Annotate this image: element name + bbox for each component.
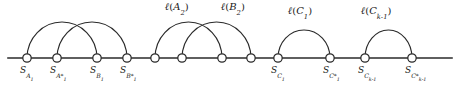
arc-arc-a2 bbox=[155, 22, 222, 58]
node-sa1 bbox=[23, 54, 31, 62]
node-sb1s bbox=[123, 54, 131, 62]
node-sb1 bbox=[93, 54, 101, 62]
node-sb2 bbox=[218, 54, 226, 62]
node-label-6: SCk-1 bbox=[358, 66, 376, 76]
arc-diagram-figure: SA1SA*1SB1SB*1SC1SC*1SCk-1SC*k-1ℓ(A2)ℓ(B… bbox=[0, 0, 462, 85]
node-label-4: SC1 bbox=[271, 66, 285, 76]
arc-label-lbl-c1: ℓ(C1) bbox=[288, 6, 312, 16]
node-sc1s bbox=[326, 54, 334, 62]
arc-arc-b2 bbox=[182, 22, 251, 58]
node-label-2: SB1 bbox=[90, 66, 104, 76]
node-sb2s bbox=[247, 54, 255, 62]
arc-arc-ck bbox=[365, 30, 412, 58]
diagram-canvas bbox=[0, 0, 462, 85]
node-sc1 bbox=[274, 54, 282, 62]
node-label-5: SC*1 bbox=[323, 66, 340, 76]
arc-label-lbl-b2: ℓ(B2) bbox=[221, 2, 245, 12]
node-label-0: SA1 bbox=[20, 66, 34, 76]
arc-arc-c1 bbox=[278, 30, 330, 58]
node-sck bbox=[361, 54, 369, 62]
arc-label-lbl-ck: ℓ(Ck-1) bbox=[361, 6, 391, 16]
node-sa2s bbox=[178, 54, 186, 62]
node-sa2 bbox=[151, 54, 159, 62]
node-label-1: SA*1 bbox=[50, 66, 67, 76]
node-label-3: SB*1 bbox=[120, 66, 137, 76]
node-sa1s bbox=[53, 54, 61, 62]
node-label-7: SC*k-1 bbox=[405, 66, 426, 76]
node-scks bbox=[408, 54, 416, 62]
arc-label-lbl-a2: ℓ(A2) bbox=[165, 2, 189, 12]
